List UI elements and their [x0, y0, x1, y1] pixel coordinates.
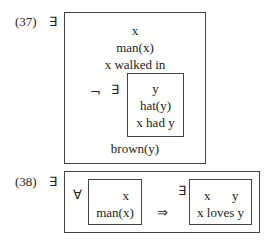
consequent-drs-box: x y x loves y — [189, 179, 252, 225]
drs-condition: x walked in — [65, 56, 205, 73]
inner-drs-box: y hat(y) x had y — [127, 73, 184, 137]
forall-icon: ∀ — [73, 187, 82, 202]
drs-condition: brown(y) — [65, 140, 205, 157]
drs-condition: hat(y) — [128, 97, 183, 114]
drs-condition: man(x) — [65, 39, 205, 56]
exists-icon: ∃ — [49, 14, 57, 29]
drs-condition: man(x) — [89, 204, 141, 221]
implies-icon: ⇒ — [157, 205, 168, 220]
drs-referent: x — [65, 22, 205, 39]
drs-condition: x had y — [128, 114, 183, 131]
exists-icon: ∃ — [49, 174, 57, 189]
antecedent-drs-box: x man(x) — [88, 179, 142, 225]
drs-referent: y — [128, 80, 183, 97]
negation-icon: ¬ — [90, 84, 101, 99]
drs-condition: x loves y — [190, 204, 251, 221]
exists-icon: ∃ — [111, 82, 119, 97]
example-number: (38) — [15, 174, 37, 189]
drs-referent: y — [232, 188, 239, 203]
drs-referent: x — [204, 188, 211, 203]
exists-icon: ∃ — [178, 183, 186, 198]
drs-referent: x — [89, 187, 141, 204]
example-number: (37) — [15, 14, 37, 29]
